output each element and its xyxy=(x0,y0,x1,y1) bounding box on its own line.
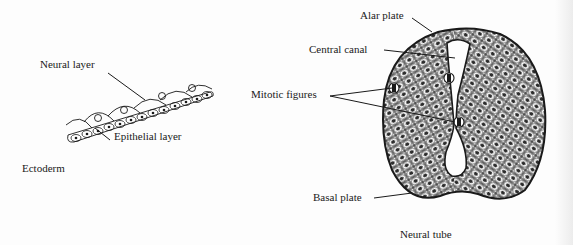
label-central-canal: Central canal xyxy=(309,44,367,55)
label-epithelial-layer: Epithelial layer xyxy=(114,131,182,142)
label-basal-plate: Basal plate xyxy=(313,192,362,203)
label-neural-layer: Neural layer xyxy=(40,59,95,70)
caption-ectoderm: Ectoderm xyxy=(22,163,65,174)
label-mitotic-figures: Mitotic figures xyxy=(251,89,317,100)
diagram-illustration xyxy=(0,0,573,245)
label-alar-plate: Alar plate xyxy=(360,10,404,21)
diagram-canvas: Neural layer Epithelial layer Ectoderm A… xyxy=(0,0,573,245)
page-edge-shadow xyxy=(555,0,573,245)
caption-neural-tube: Neural tube xyxy=(400,229,452,240)
